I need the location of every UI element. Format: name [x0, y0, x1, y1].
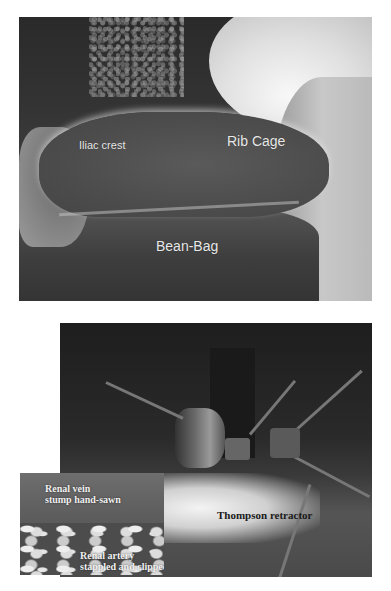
- renal-artery-label-line1: Renal artery: [80, 550, 164, 561]
- renal-vein-label-line1: Renal vein: [45, 483, 121, 494]
- retractor-clamp: [270, 428, 300, 458]
- renal-vein-label: Renal vein stump hand-sawn: [45, 483, 121, 505]
- iliac-crest-label: Iliac crest: [79, 139, 125, 151]
- renal-artery-label-line2: stappled and clipped: [80, 561, 164, 572]
- renal-vein-label-line2: stump hand-sawn: [45, 494, 121, 505]
- renal-artery-label: Renal artery stappled and clipped: [80, 550, 164, 572]
- thompson-retractor-label: Thompson retractor: [217, 509, 312, 521]
- retractor-clamp: [225, 438, 250, 460]
- bean-bag-label: Bean-Bag: [156, 238, 218, 254]
- inset-photo-renal-hilum: Renal vein stump hand-sawn Renal artery …: [20, 473, 164, 575]
- background-plant: [89, 17, 184, 97]
- top-photo-patient-positioning: Iliac crest Rib Cage Bean-Bag: [19, 17, 372, 301]
- rib-cage-label: Rib Cage: [227, 133, 285, 149]
